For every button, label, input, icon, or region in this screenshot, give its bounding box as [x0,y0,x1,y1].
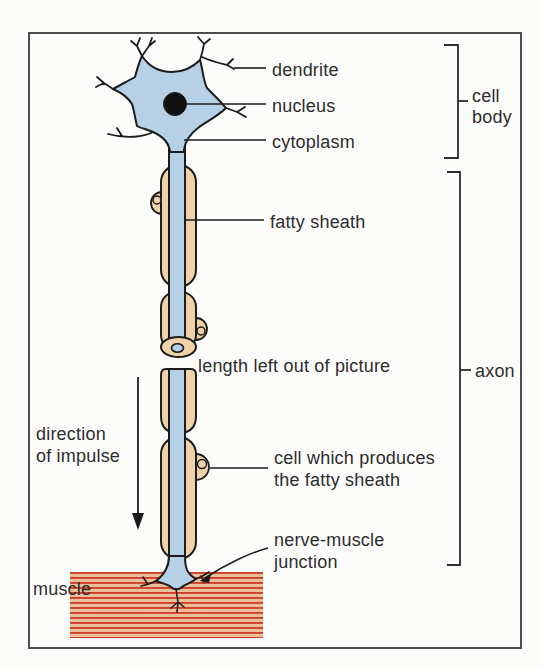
direction-arrow [132,377,144,530]
axon-cut-face [172,344,184,352]
schwann-nucleus [198,460,207,469]
dendrite-label: dendrite [272,59,339,81]
nerve-muscle-junction-label: nerve-muscle junction [274,529,384,573]
figure-canvas: dendrite nucleus cytoplasm cell body fat… [0,0,542,669]
cytoplasm-label: cytoplasm [272,131,355,153]
schwann-nucleus [153,196,161,204]
nucleus-label: nucleus [272,95,335,117]
schwann-nucleus [197,327,205,335]
nucleus-dot [164,93,187,116]
axon-label: axon [475,360,515,382]
length-note-label: length left out of picture [198,355,390,377]
producer-cell-label: cell which produces the fatty sheath [274,447,435,491]
cell-body-bracket [444,45,468,158]
axon-tube-upper [169,140,185,347]
axon-tube-lower [169,369,185,558]
axon-bracket [447,172,471,565]
neuron-diagram [0,0,542,669]
cell-body-label: cell body [472,86,512,128]
fatty-sheath-label: fatty sheath [270,211,365,233]
muscle-label: muscle [33,578,91,600]
direction-of-impulse-label: direction of impulse [36,423,120,467]
